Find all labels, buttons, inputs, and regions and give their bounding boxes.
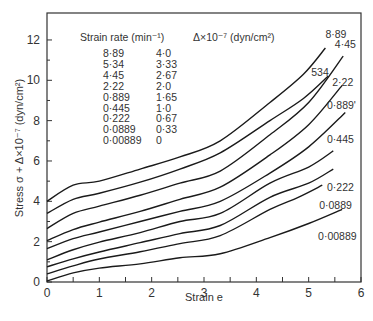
y-tick-label: 0: [33, 275, 40, 289]
y-tick-label: 10: [27, 73, 41, 87]
plot-frame: [47, 13, 361, 282]
curve-label: 4·45: [335, 38, 356, 50]
stress-strain-chart: 0123456 024681012 8·895344·452·220·889'0…: [0, 0, 373, 321]
curves: [47, 48, 345, 281]
curve-label: 0·00889: [318, 230, 357, 242]
legend-rows: 8·894·05·343·334·452·672·222·00·8891·650…: [103, 47, 177, 146]
curve-label: 0·889': [327, 99, 356, 111]
y-tick-label: 12: [27, 33, 41, 47]
legend-header-delta: Δ×10⁻⁷ (dyn/cm²): [193, 31, 274, 43]
curve-label: 534: [311, 66, 329, 78]
y-tick-label: 8: [33, 114, 40, 128]
curve-series-6: [47, 169, 333, 267]
legend-header-rate: Strain rate (min⁻¹): [80, 31, 164, 43]
curve-label: 0·445: [327, 133, 354, 145]
y-axis-title: Stress σ + Δ×10⁻⁷ (dyn/cm²): [13, 79, 25, 217]
x-tick-label: 6: [358, 286, 365, 300]
curve-series-1: [47, 76, 328, 213]
y-tick-label: 6: [33, 154, 40, 168]
legend: Strain rate (min⁻¹) Δ×10⁻⁷ (dyn/cm²) 8·8…: [80, 31, 274, 146]
curve-series-5: [47, 151, 333, 260]
curve-label: 2·22: [332, 76, 353, 88]
x-axis-title: Strain e: [185, 291, 223, 303]
curve-label: 0·0889: [319, 199, 352, 211]
y-axis: 024681012: [27, 33, 52, 289]
curve-labels: 8·895344·452·220·889'0·4450·2220·08890·0…: [311, 28, 356, 242]
curve-series-3: [47, 85, 342, 240]
curve-series-8: [47, 209, 342, 281]
x-tick-label: 4: [253, 286, 260, 300]
legend-rate: 0·00889: [103, 134, 142, 146]
x-tick-label: 5: [305, 286, 312, 300]
curve-series-2: [47, 56, 343, 228]
y-tick-label: 4: [33, 194, 40, 208]
x-tick-label: 0: [44, 286, 51, 300]
curve-label: 0·222: [327, 181, 354, 193]
x-tick-label: 2: [148, 286, 155, 300]
y-tick-label: 2: [33, 235, 40, 249]
curve-series-4: [47, 113, 345, 249]
x-tick-label: 1: [96, 286, 103, 300]
legend-delta: 0: [156, 134, 162, 146]
